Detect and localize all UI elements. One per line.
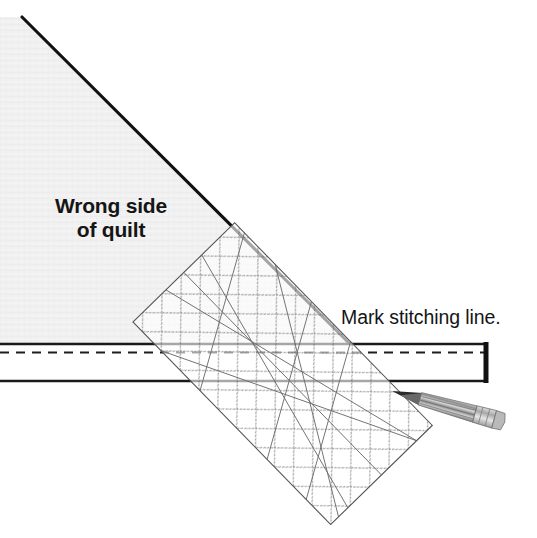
illustration-canvas: Wrong side of quilt Mark stitching line.: [0, 0, 537, 538]
diagram-svg: [0, 0, 537, 538]
